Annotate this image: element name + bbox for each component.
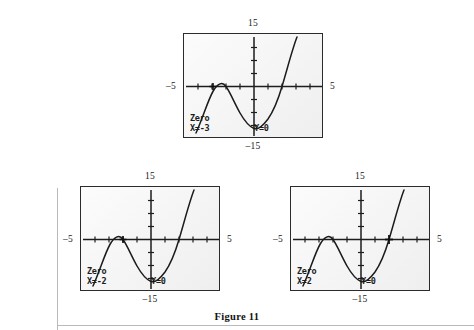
calculator-screen-top[interactable]: Zero X=-3 Y=0 bbox=[183, 33, 323, 138]
curve-bottom-left bbox=[93, 190, 194, 286]
axis-label-xmin-bottom-right: –5 bbox=[265, 234, 283, 244]
figure-page: Zero X=-3 Y=0 15 –15 –5 5 bbox=[0, 0, 474, 330]
readout-x-value-bottom-right: X=2 bbox=[297, 277, 311, 287]
zero-cursor-marker-bottom-right bbox=[385, 235, 393, 244]
axis-label-xmin-top: –5 bbox=[158, 81, 176, 91]
axis-label-ymax-bottom-left: 15 bbox=[145, 171, 155, 181]
axis-label-xmax-bottom-right: 5 bbox=[437, 234, 442, 244]
readout-y-value-bottom-right: Y=0 bbox=[361, 277, 376, 287]
axis-label-ymin-bottom-right: –15 bbox=[353, 294, 368, 304]
page-rule-vertical bbox=[57, 188, 58, 330]
readout-y-value-top: Y=0 bbox=[254, 124, 269, 134]
zero-cursor-marker-top bbox=[210, 83, 217, 90]
calculator-panel-bottom-right: Zero X=2 Y=0 15 –15 –5 5 bbox=[290, 186, 430, 291]
curve-top bbox=[196, 37, 297, 133]
calculator-screen-bottom-right[interactable]: Zero X=2 Y=0 bbox=[290, 186, 430, 291]
axis-label-xmax-bottom-left: 5 bbox=[227, 234, 232, 244]
readout-y-value-bottom-left: Y=0 bbox=[151, 277, 166, 287]
readout-x-value-bottom-left: X=-2 bbox=[87, 277, 106, 287]
axis-label-xmax-top: 5 bbox=[330, 81, 335, 91]
axis-label-ymax-top: 15 bbox=[248, 18, 258, 28]
calculator-screen-bottom-left[interactable]: Zero X=-2 Y=0 bbox=[80, 186, 220, 291]
axis-label-ymin-top: –15 bbox=[246, 141, 261, 151]
calculator-panel-bottom-left: Zero X=-2 Y=0 15 –15 –5 5 bbox=[80, 186, 220, 291]
calculator-panel-top: Zero X=-3 Y=0 15 –15 –5 5 bbox=[183, 33, 323, 138]
page-rule-horizontal bbox=[57, 325, 474, 326]
readout-x-value-top: X=-3 bbox=[190, 124, 209, 134]
axis-label-ymin-bottom-left: –15 bbox=[143, 294, 158, 304]
axis-label-ymax-bottom-right: 15 bbox=[355, 171, 365, 181]
axis-label-xmin-bottom-left: –5 bbox=[55, 234, 73, 244]
figure-caption: Figure 11 bbox=[0, 311, 474, 322]
